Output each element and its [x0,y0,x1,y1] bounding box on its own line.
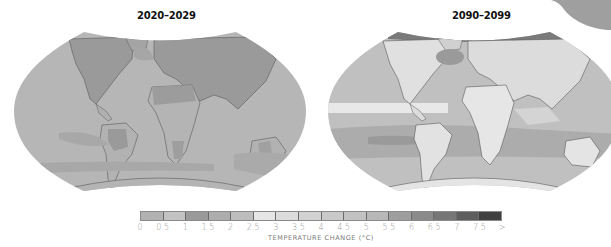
legend-tick-label: 0 [137,223,142,232]
legend-swatch [434,212,457,220]
legend-tick-label: 1 [183,223,188,232]
map-title-2020-2029: 2020–2029 [137,10,196,21]
legend-swatch [141,212,164,220]
legend-title: TEMPERATURE CHANGE (°C) [140,234,502,242]
legend-tick-label: 7.5 [473,223,486,232]
legend-tick-label: 5.5 [383,223,396,232]
legend-swatch [412,212,435,220]
legend-tick-label: 3 [273,223,278,232]
legend-tick-label: 6 [409,223,414,232]
legend-swatch [186,212,209,220]
legend-swatch [389,212,412,220]
legend-tick-label: 7 [454,223,459,232]
legend-swatch [254,212,277,220]
legend-tick-label: 4 [318,223,323,232]
map-2020-2029 [14,29,306,194]
legend-tick-label: > [499,223,506,232]
legend-tick-label: 2 [228,223,233,232]
legend-swatch [322,212,345,220]
legend-tick-label: 2.5 [247,223,260,232]
legend-swatch [299,212,322,220]
legend-tick-label: 1.5 [202,223,215,232]
legend-swatch [344,212,367,220]
legend-tick-label: 4.5 [337,223,350,232]
legend-swatch [209,212,232,220]
legend-swatch [276,212,299,220]
map-2090-2099 [328,29,611,194]
legend-color-bar [140,211,502,221]
legend-swatch [367,212,390,220]
legend-tick-label: 3.5 [292,223,305,232]
legend-tick-labels: 00.511.522.533.544.555.566.577.5> [140,223,502,234]
legend-tick-label: 0.5 [156,223,169,232]
legend-swatch [479,212,501,220]
legend-swatch [231,212,254,220]
legend-swatch [164,212,187,220]
temperature-legend: 00.511.522.533.544.555.566.577.5> TEMPER… [140,211,502,242]
legend-swatch [457,212,480,220]
map-title-2090-2099: 2090–2099 [452,10,511,21]
legend-tick-label: 5 [364,223,369,232]
legend-tick-label: 6.5 [428,223,441,232]
